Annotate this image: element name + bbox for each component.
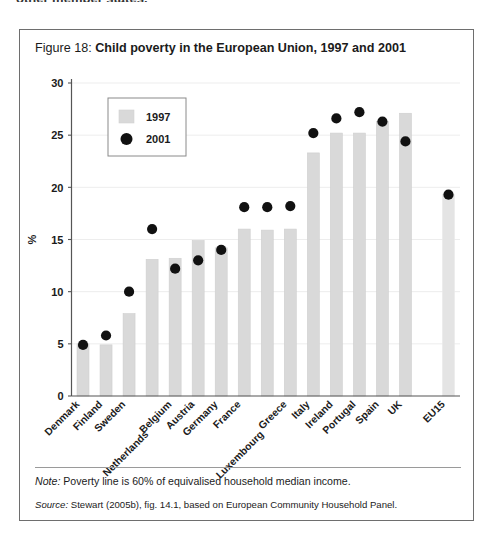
dot-portugal bbox=[354, 107, 364, 117]
legend-swatch-1997 bbox=[119, 110, 134, 123]
chart-plot-area: 051015202530 % DenmarkFinlandSwedenNethe… bbox=[20, 30, 475, 522]
dot-uk bbox=[400, 136, 410, 146]
bar-spain bbox=[376, 122, 388, 396]
x-tick-label-greece: Greece bbox=[256, 398, 289, 431]
dot-denmark bbox=[78, 340, 88, 350]
y-tick-label: 0 bbox=[57, 390, 63, 402]
y-tick-label: 20 bbox=[51, 182, 63, 194]
bar-eu15 bbox=[442, 195, 454, 396]
dot-finland bbox=[101, 330, 111, 340]
child-poverty-chart: 051015202530 % DenmarkFinlandSwedenNethe… bbox=[20, 30, 475, 522]
x-tick-label-uk: UK bbox=[386, 398, 405, 417]
dot-sweden bbox=[124, 287, 134, 297]
figure-container: Figure 18: Child poverty in the European… bbox=[19, 29, 474, 521]
bar-uk bbox=[399, 113, 411, 396]
dot-austria bbox=[193, 255, 203, 265]
figure-notes: Note: Poverty line is 60% of equivalised… bbox=[35, 475, 463, 510]
legend-label-1997: 1997 bbox=[146, 111, 170, 123]
dot-spain bbox=[377, 117, 387, 127]
bar-greece bbox=[284, 229, 296, 396]
source-text: Stewart (2005b), fig. 14.1, based on Eur… bbox=[68, 499, 397, 510]
bar-netherlands bbox=[146, 259, 158, 396]
dot-italy bbox=[308, 128, 318, 138]
source-prefix: Source: bbox=[35, 499, 68, 510]
x-axis-tick-labels: DenmarkFinlandSwedenNetherlandsBelgiumAu… bbox=[42, 398, 447, 480]
y-tick-label: 15 bbox=[51, 234, 63, 246]
page-running-text: other member states. bbox=[16, 0, 316, 2]
figure-source: Source: Stewart (2005b), fig. 14.1, base… bbox=[35, 499, 463, 510]
bar-italy bbox=[307, 153, 319, 396]
notes-divider bbox=[35, 467, 461, 468]
x-tick-label-luxembourg: Luxembourg bbox=[214, 429, 266, 481]
bar-belgium bbox=[169, 258, 181, 396]
y-tick-label: 10 bbox=[51, 286, 63, 298]
bar-germany bbox=[215, 248, 227, 396]
y-tick-label: 25 bbox=[51, 129, 63, 141]
chart-legend: 19972001 bbox=[108, 98, 186, 156]
y-axis-tick-labels: 051015202530 bbox=[51, 77, 63, 402]
x-tick-label-eu15: EU15 bbox=[421, 398, 447, 424]
dot-netherlands bbox=[147, 224, 157, 234]
y-axis-label: % bbox=[26, 234, 38, 244]
legend-box bbox=[108, 98, 186, 156]
dot-germany bbox=[216, 245, 226, 255]
figure-note: Note: Poverty line is 60% of equivalised… bbox=[35, 475, 463, 487]
note-prefix: Note: bbox=[35, 475, 60, 487]
bar-portugal bbox=[353, 133, 365, 396]
bar-ireland bbox=[330, 133, 342, 396]
dot-france bbox=[239, 202, 249, 212]
x-tick-label-belgium: Belgium bbox=[137, 399, 174, 436]
y-tick-label: 5 bbox=[57, 338, 63, 350]
x-tick-label-netherlands: Netherlands bbox=[101, 428, 151, 478]
bar-denmark bbox=[77, 344, 89, 396]
bar-sweden bbox=[123, 314, 135, 396]
bar-finland bbox=[100, 345, 112, 396]
bar-france bbox=[238, 229, 250, 396]
legend-swatch-2001 bbox=[121, 133, 133, 145]
x-tick-label-denmark: Denmark bbox=[42, 398, 81, 437]
bar-luxembourg bbox=[261, 230, 273, 396]
dot-belgium bbox=[170, 264, 180, 274]
x-tick-label-spain: Spain bbox=[353, 399, 381, 427]
dot-eu15 bbox=[443, 190, 453, 200]
dot-ireland bbox=[331, 113, 341, 123]
y-tick-label: 30 bbox=[51, 77, 63, 89]
y-axis-label-text: % bbox=[26, 234, 38, 244]
note-text: Poverty line is 60% of equivalised house… bbox=[60, 475, 350, 487]
dot-luxembourg bbox=[262, 202, 272, 212]
dot-greece bbox=[285, 201, 295, 211]
legend-label-2001: 2001 bbox=[146, 133, 170, 145]
